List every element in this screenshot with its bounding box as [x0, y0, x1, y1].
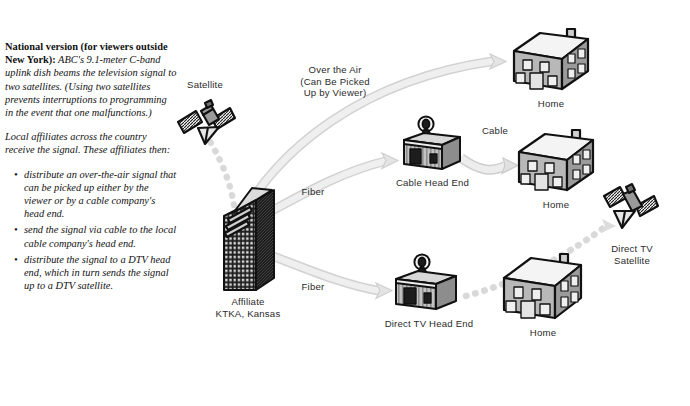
node-home-middle	[515, 128, 597, 198]
flow-fiber-upper	[262, 153, 398, 216]
fiber-upper-label: Fiber	[291, 186, 335, 198]
satellite-icon	[175, 95, 235, 155]
node-home-top	[510, 27, 592, 97]
dtv-satellite-label: Direct TV Satellite	[594, 243, 670, 266]
node-dtv-head-end	[390, 254, 462, 314]
paragraph-local-affiliates: Local affiliates across the country rece…	[5, 130, 177, 156]
cable-label: Cable	[470, 125, 520, 137]
list-item: send the signal via cable to the local c…	[17, 223, 177, 249]
satellite-label: Satellite	[172, 79, 238, 91]
node-home-bottom	[500, 252, 586, 326]
node-satellite	[175, 95, 235, 155]
home-top-label: Home	[510, 98, 592, 110]
affiliate-label: Affiliate KTKA, Kansas	[198, 296, 298, 319]
house-icon	[510, 27, 592, 97]
satellite-icon	[602, 182, 660, 242]
dtv-head-end-label: Direct TV Head End	[374, 318, 484, 330]
home-middle-label: Home	[515, 199, 597, 211]
house-icon	[515, 128, 597, 198]
paragraph-national-version: National version (for viewers outside Ne…	[5, 40, 177, 119]
node-cable-head-end	[398, 116, 464, 174]
node-dtv-satellite	[602, 182, 660, 242]
over-the-air-label: Over the Air (Can Be Picked Up by Viewer…	[280, 64, 390, 99]
list-item: distribute an over-the-air signal that c…	[17, 168, 177, 221]
diagram-canvas: National version (for viewers outside Ne…	[0, 0, 690, 406]
node-affiliate	[216, 186, 282, 298]
flow-cable	[461, 158, 518, 174]
cable-head-end-label: Cable Head End	[385, 177, 480, 189]
affiliate-actions-list: distribute an over-the-air signal that c…	[5, 168, 177, 293]
explanatory-text: National version (for viewers outside Ne…	[5, 40, 177, 295]
head-end-building-icon	[398, 116, 464, 174]
office-tower-icon	[216, 186, 282, 298]
list-item: distribute the signal to a DTV head end,…	[17, 253, 177, 293]
head-end-building-icon	[390, 254, 462, 314]
fiber-lower-label: Fiber	[291, 281, 335, 293]
house-icon	[500, 252, 586, 326]
home-bottom-label: Home	[502, 327, 584, 339]
